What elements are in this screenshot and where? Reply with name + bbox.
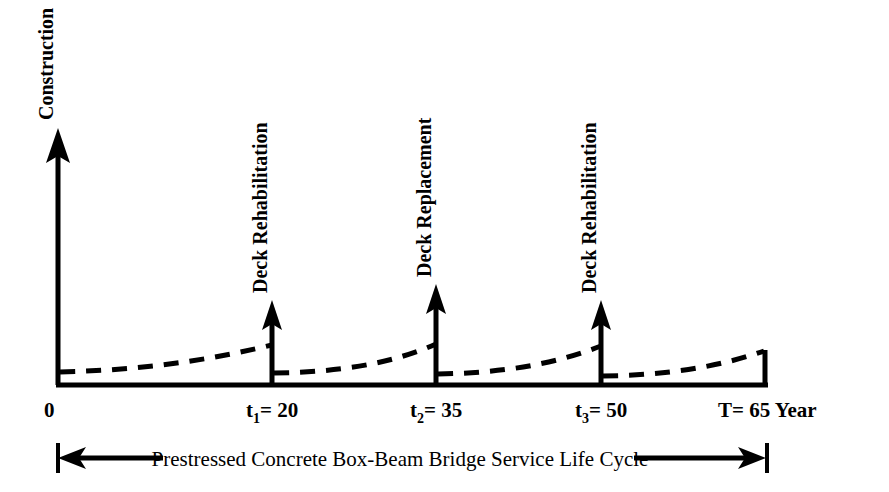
y-axis-label: Construction: [35, 8, 57, 120]
deterioration-segment-1: [60, 345, 272, 372]
x-tick-label-t3: t3= 50: [575, 398, 627, 426]
event-label-deck-rehab-1: Deck Rehabilitation: [249, 122, 271, 293]
x-tick-t2-base: t: [410, 398, 417, 422]
x-tick-t3-base: t: [575, 398, 582, 422]
x-tick-label-t1: t1= 20: [246, 398, 298, 426]
event-deck-rehab-2: Deck Rehabilitation: [578, 122, 611, 385]
event-label-deck-rehab-2: Deck Rehabilitation: [578, 122, 600, 293]
x-tick-t3-subscript: 3: [582, 411, 589, 426]
deterioration-segment-2: [274, 344, 436, 373]
x-tick-t2-subscript: 2: [417, 411, 424, 426]
event-deck-rehab-1: Deck Rehabilitation: [249, 122, 282, 385]
event-label-deck-replacement: Deck Replacement: [413, 117, 436, 277]
x-tick-t1-suffix: = 20: [260, 398, 298, 422]
x-tick-t1-base: t: [246, 398, 253, 422]
x-tick-label-t2: t2= 35: [410, 398, 462, 426]
y-axis-group: Construction: [35, 8, 70, 385]
deterioration-segment-4: [603, 351, 764, 376]
deterioration-curve-group: [60, 344, 764, 376]
x-tick-t1-subscript: 1: [253, 411, 260, 426]
deterioration-segment-3: [438, 346, 601, 374]
life-cycle-diagram: Construction Deck Rehabilitation Deck Re…: [0, 0, 889, 492]
x-tick-label-origin: 0: [44, 398, 55, 422]
diagram-canvas: Construction Deck Rehabilitation Deck Re…: [0, 0, 889, 492]
service-life-caption: Prestressed Concrete Box-Beam Bridge Ser…: [152, 447, 649, 471]
x-tick-t3-suffix: = 50: [589, 398, 627, 422]
service-life-span-group: Prestressed Concrete Box-Beam Bridge Ser…: [58, 443, 767, 473]
x-tick-t2-suffix: = 35: [424, 398, 462, 422]
x-axis-tick-labels: 0 t1= 20 t2= 35 t3= 50 T= 65 Year: [44, 398, 817, 426]
x-tick-label-end: T= 65 Year: [718, 398, 817, 422]
